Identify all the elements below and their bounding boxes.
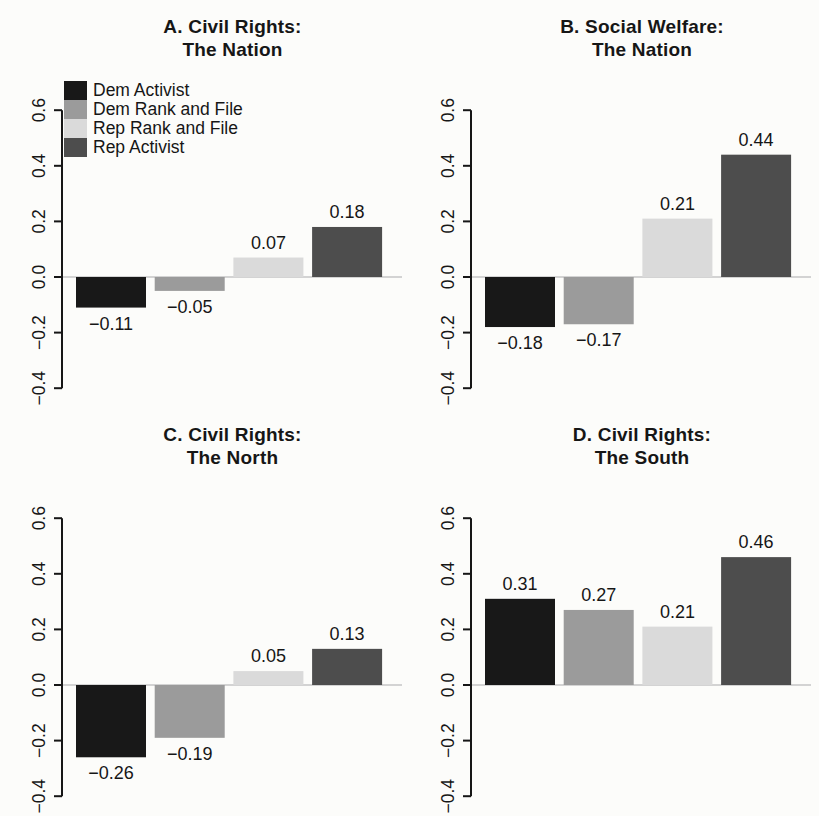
bar-value-label: 0.44 — [739, 130, 774, 150]
bar-dem-rank-and-file — [155, 277, 225, 291]
dem-activist-swatch-icon — [64, 81, 87, 100]
panel-d-civil-rights-south: D. Civil Rights: The South −0.4−0.20.00.… — [409, 408, 819, 816]
y-axis-tick-label: 0.2 — [29, 209, 49, 233]
bar-dem-activist — [76, 685, 146, 757]
bar-dem-activist — [485, 599, 555, 685]
panel-a-title: A. Civil Rights: The Nation — [0, 0, 409, 61]
panel-d-title-line2: The South — [465, 446, 819, 469]
y-axis-tick-label: 0.2 — [29, 617, 49, 641]
legend-label: Dem Rank and File — [93, 99, 243, 120]
bar-dem-activist — [485, 277, 555, 327]
panel-d-title: D. Civil Rights: The South — [409, 408, 819, 469]
panel-b-title-line2: The Nation — [465, 38, 819, 61]
bar-chart-panel-d: −0.4−0.20.00.20.40.60.310.270.210.46 — [409, 483, 818, 816]
y-axis-tick-label: 0.6 — [29, 506, 49, 530]
legend-item-rep-rank-and-file: Rep Rank and File — [64, 119, 243, 138]
panel-b-title-line1: B. Social Welfare: — [465, 15, 819, 38]
bar-value-label: 0.18 — [330, 202, 365, 222]
bar-rep-rank-and-file — [233, 258, 303, 277]
bar-value-label: −0.11 — [89, 314, 133, 334]
panel-d-title-line1: D. Civil Rights: — [465, 423, 819, 446]
bar-rep-activist — [721, 155, 791, 277]
legend-item-rep-activist: Rep Activist — [64, 138, 243, 157]
y-axis-tick-label: 0.6 — [438, 506, 458, 530]
legend: Dem Activist Dem Rank and File Rep Rank … — [64, 81, 243, 157]
y-axis-tick-label: −0.4 — [29, 779, 49, 814]
bar-rep-activist — [312, 649, 382, 685]
legend-item-dem-activist: Dem Activist — [64, 81, 243, 100]
panel-a-title-line1: A. Civil Rights: — [56, 15, 409, 38]
legend-label: Dem Activist — [93, 80, 189, 101]
y-axis-tick-label: 0.0 — [438, 265, 458, 290]
y-axis-tick-label: 0.6 — [29, 98, 49, 122]
y-axis-tick-label: 0.4 — [29, 153, 49, 178]
y-axis-tick-label: −0.2 — [29, 315, 49, 350]
bar-rep-rank-and-file — [642, 219, 712, 277]
bar-rep-activist — [312, 227, 382, 277]
y-axis-tick-label: −0.4 — [438, 371, 458, 406]
y-axis-tick-label: −0.2 — [438, 315, 458, 350]
bar-value-label: 0.21 — [660, 602, 695, 622]
bar-dem-rank-and-file — [155, 685, 225, 738]
bar-value-label: 0.46 — [739, 532, 774, 552]
y-axis-tick-label: −0.2 — [438, 723, 458, 758]
bar-rep-activist — [721, 557, 791, 685]
panel-c-title-line2: The North — [56, 446, 409, 469]
bar-value-label: −0.05 — [167, 297, 213, 317]
y-axis-tick-label: 0.4 — [29, 561, 49, 586]
y-axis-tick-label: −0.2 — [29, 723, 49, 758]
bar-value-label: 0.13 — [330, 624, 365, 644]
bar-dem-rank-and-file — [564, 610, 634, 685]
bar-chart-panel-b: −0.4−0.20.00.20.40.6−0.18−0.170.210.44 — [409, 75, 818, 408]
dem-rank-and-file-swatch-icon — [64, 100, 87, 119]
legend-item-dem-rank-and-file: Dem Rank and File — [64, 100, 243, 119]
bar-value-label: −0.17 — [576, 330, 622, 350]
panel-b-social-welfare-nation: B. Social Welfare: The Nation −0.4−0.20.… — [409, 0, 819, 408]
bar-rep-rank-and-file — [642, 627, 712, 685]
y-axis-tick-label: 0.6 — [438, 98, 458, 122]
y-axis-tick-label: 0.4 — [438, 561, 458, 586]
four-panel-bar-chart-figure: A. Civil Rights: The Nation Dem Activist… — [0, 0, 819, 816]
bar-value-label: 0.27 — [581, 585, 616, 605]
bar-value-label: −0.18 — [497, 333, 543, 353]
y-axis-tick-label: −0.4 — [29, 371, 49, 406]
y-axis-tick-label: 0.0 — [29, 265, 49, 290]
panel-c-title-line1: C. Civil Rights: — [56, 423, 409, 446]
y-axis-tick-label: 0.0 — [29, 673, 49, 698]
y-axis-tick-label: −0.4 — [438, 779, 458, 814]
y-axis-tick-label: 0.0 — [438, 673, 458, 698]
bar-value-label: 0.07 — [251, 233, 286, 253]
bar-dem-activist — [76, 277, 146, 308]
legend-label: Rep Activist — [93, 137, 184, 158]
y-axis-tick-label: 0.2 — [438, 209, 458, 233]
bar-value-label: 0.21 — [660, 194, 695, 214]
bar-rep-rank-and-file — [233, 671, 303, 685]
bar-value-label: 0.05 — [251, 646, 286, 666]
bar-chart-panel-c: −0.4−0.20.00.20.40.6−0.26−0.190.050.13 — [0, 483, 409, 816]
y-axis-tick-label: 0.4 — [438, 153, 458, 178]
bar-value-label: −0.19 — [167, 744, 213, 764]
panel-c-title: C. Civil Rights: The North — [0, 408, 409, 469]
panel-a-civil-rights-nation: A. Civil Rights: The Nation Dem Activist… — [0, 0, 409, 408]
bar-value-label: 0.31 — [502, 574, 537, 594]
panel-a-title-line2: The Nation — [56, 38, 409, 61]
y-axis-tick-label: 0.2 — [438, 617, 458, 641]
rep-activist-swatch-icon — [64, 138, 87, 157]
bar-dem-rank-and-file — [564, 277, 634, 324]
panel-b-title: B. Social Welfare: The Nation — [409, 0, 819, 61]
rep-rank-and-file-swatch-icon — [64, 119, 87, 138]
bar-value-label: −0.26 — [88, 763, 134, 783]
panel-c-civil-rights-north: C. Civil Rights: The North −0.4−0.20.00.… — [0, 408, 409, 816]
legend-label: Rep Rank and File — [93, 118, 238, 139]
